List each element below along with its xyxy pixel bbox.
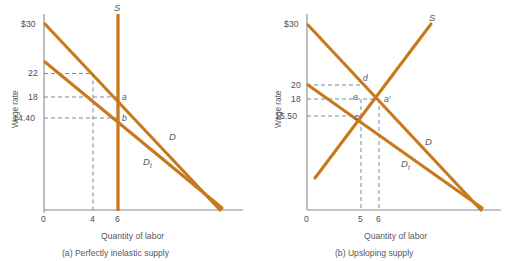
panel-b-label-demand: D [425, 136, 432, 147]
panel-a-label-demand-tax-base: D [143, 156, 150, 167]
demand-curve-D [45, 24, 220, 210]
panel-b-point-d: d [363, 73, 368, 83]
panel-b-label-demand-tax-base: D [401, 158, 408, 169]
guide-lines [307, 85, 379, 210]
panel-b-caption: (b) Upsloping supply [335, 248, 413, 258]
panel-b-point-e: e [353, 92, 358, 102]
panel-a-ytick-0: $30 [21, 19, 36, 29]
demand-curve-D [308, 25, 481, 210]
panel-a-plot [0, 0, 252, 261]
demand-curve-Dt [45, 62, 222, 208]
panel-b-label-supply: S [429, 12, 435, 23]
panel-b-ytick-1: 20 [291, 80, 301, 90]
panel-a-xtick-2: 6 [115, 214, 120, 224]
panel-b-yaxis-title: Wage rate [274, 91, 283, 128]
panel-a-xtick-0: 0 [41, 214, 46, 224]
panel-b-ytick-0: $30 [284, 19, 299, 29]
figure-container: $30 22 18 14.40 0 4 6 Wage rate Quantity… [0, 0, 505, 261]
panel-a-label-demand-tax-sub: t [150, 162, 152, 169]
panel-a-caption: (a) Perfectly inelastic supply [62, 248, 169, 258]
guide-lines [44, 74, 118, 211]
panel-a-point-a: a [122, 92, 127, 102]
panel-a-label-demand-tax: Dt [143, 156, 152, 169]
panel-b-ytick-2: 18 [291, 94, 301, 104]
panel-a-yaxis-title: Wage rate [11, 91, 20, 128]
panel-b-label-demand-tax: Dt [401, 158, 410, 171]
panel-a-ytick-2: 18 [28, 92, 38, 102]
panel-a-ytick-1: 22 [28, 68, 38, 78]
panel-a-xaxis-title: Quantity of labor [101, 231, 164, 241]
panel-b-xtick-0: 0 [304, 214, 309, 224]
panel-b-xaxis-title: Quantity of labor [364, 231, 427, 241]
panel-b-point-a-prime: a' [384, 94, 390, 104]
panel-a-point-b: b [122, 113, 127, 123]
panel-upsloping-supply: $30 20 18 15.50 0 5 6 Wage rate Quantity… [253, 0, 505, 261]
panel-a-label-demand: D [169, 131, 176, 142]
panel-a-label-supply: S [114, 2, 120, 13]
panel-a-xtick-1: 4 [90, 214, 95, 224]
panel-b-label-demand-tax-sub: t [408, 164, 410, 171]
panel-b-xtick-2: 6 [376, 214, 381, 224]
panel-perfectly-inelastic-supply: $30 22 18 14.40 0 4 6 Wage rate Quantity… [0, 0, 252, 261]
panel-b-point-c: c [354, 112, 358, 122]
panel-b-xtick-1: 5 [358, 214, 363, 224]
demand-curve-Dt [308, 85, 482, 208]
